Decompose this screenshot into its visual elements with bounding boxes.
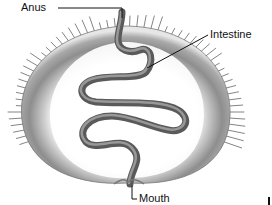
anus-leader-line bbox=[58, 8, 122, 18]
label-mouth: Mouth bbox=[139, 193, 170, 204]
sea-urchin-diagram: Anus Intestine Mouth bbox=[0, 0, 272, 205]
cropped-edge-mark bbox=[268, 197, 270, 205]
mouth-leader-line bbox=[132, 186, 137, 199]
label-anus: Anus bbox=[21, 2, 46, 13]
label-intestine: Intestine bbox=[210, 29, 252, 40]
